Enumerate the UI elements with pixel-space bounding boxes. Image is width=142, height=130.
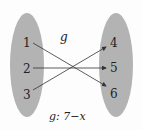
function-caption: g: 7−x (49, 110, 86, 123)
domain-element-2: 2 (23, 62, 31, 76)
function-label: g (60, 30, 68, 44)
codomain-element-4: 4 (110, 36, 118, 50)
domain-element-3: 3 (23, 88, 31, 102)
codomain-element-6: 6 (110, 87, 118, 101)
mapping-diagram: 1 2 3 4 5 6 g g: 7−x (0, 0, 142, 130)
codomain-element-5: 5 (110, 61, 118, 75)
domain-element-1: 1 (23, 36, 31, 50)
